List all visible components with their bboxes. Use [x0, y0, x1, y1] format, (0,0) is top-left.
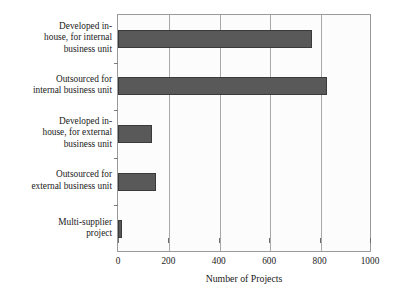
- x-axis-tick-label: 0: [98, 256, 138, 267]
- y-axis-tick: [114, 205, 118, 206]
- x-axis-tick-400: [219, 238, 220, 243]
- x-axis-tick-label: 200: [148, 256, 188, 267]
- horizontal-bar-chart: Developed in- house, for internal busine…: [0, 0, 399, 304]
- plot-area: [117, 14, 371, 252]
- x-axis-tick-1000: [370, 238, 371, 243]
- category-label: Multi-supplier project: [0, 217, 112, 240]
- x-axis-tick-0: [118, 238, 119, 243]
- x-axis-tick-label: 400: [199, 256, 239, 267]
- y-axis-tick: [114, 158, 118, 159]
- y-axis-tick: [114, 63, 118, 64]
- category-label: Outsourced for external business unit: [0, 169, 112, 192]
- bar: [118, 220, 122, 238]
- x-axis-tick-800: [320, 238, 321, 243]
- x-axis-tick-label: 800: [300, 256, 340, 267]
- category-label: Developed in- house, for external busine…: [0, 116, 112, 150]
- x-axis-tick-label: 600: [249, 256, 289, 267]
- y-axis-tick: [114, 110, 118, 111]
- category-label: Developed in- house, for internal busine…: [0, 21, 112, 55]
- bar: [118, 125, 152, 143]
- category-axis-labels: Developed in- house, for internal busine…: [0, 14, 112, 252]
- bar: [118, 173, 156, 191]
- category-label: Outsourced for internal business unit: [0, 74, 112, 97]
- x-axis-tick-label: 1000: [350, 256, 390, 267]
- bars-layer: [118, 15, 370, 251]
- bar: [118, 77, 327, 95]
- x-axis-title: Number of Projects: [117, 273, 371, 284]
- x-axis-tick-600: [269, 238, 270, 243]
- bar: [118, 30, 312, 48]
- x-axis-tick-200: [168, 238, 169, 243]
